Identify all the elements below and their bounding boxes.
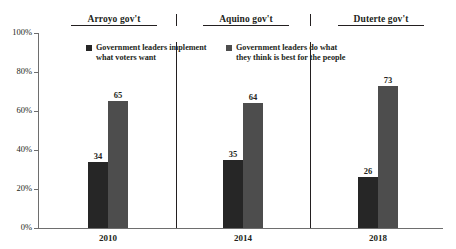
y-tick-label: 60% xyxy=(16,105,32,115)
bar-2014-series-1 xyxy=(223,160,243,228)
group-header-aquino: Aquino gov't xyxy=(203,14,289,26)
bar-2018-series-2 xyxy=(378,86,398,228)
group-header-duterte: Duterte gov't xyxy=(338,14,424,26)
y-tick-label: 80% xyxy=(16,66,32,76)
chart-canvas: Arroyo gov't Aquino gov't Duterte gov't … xyxy=(0,0,456,249)
y-tick-label: 0% xyxy=(21,222,32,232)
y-tick-label: 20% xyxy=(16,183,32,193)
bar-2010-series-1 xyxy=(88,162,108,228)
x-axis-line xyxy=(38,228,443,229)
x-axis-label-2010: 2010 xyxy=(78,233,138,243)
bar-value-label-2014-series-2: 64 xyxy=(238,92,268,102)
y-tick-label: 100% xyxy=(12,27,32,37)
bar-2018-series-1 xyxy=(358,177,378,228)
group-divider-2-top xyxy=(310,14,311,26)
x-axis-label-2014: 2014 xyxy=(213,233,273,243)
x-axis-label-2018: 2018 xyxy=(348,233,408,243)
y-tick-label: 40% xyxy=(16,144,32,154)
bar-value-label-2010-series-2: 65 xyxy=(103,90,133,100)
group-divider-1-top xyxy=(176,14,177,26)
bar-2010-series-2 xyxy=(108,101,128,228)
plot-area: 346535642673 xyxy=(38,33,443,228)
group-header-arroyo: Arroyo gov't xyxy=(71,14,157,26)
bar-value-label-2018-series-2: 73 xyxy=(373,75,403,85)
y-tick-mark xyxy=(34,228,39,229)
bar-2014-series-2 xyxy=(243,103,263,228)
